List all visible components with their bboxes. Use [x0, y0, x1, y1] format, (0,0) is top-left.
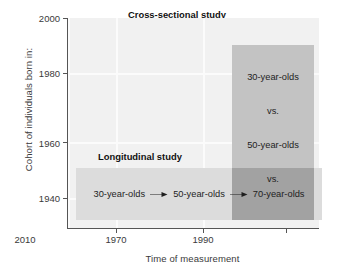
- longitudinal-item-list: 30-year-olds 50-year-olds 70-year-olds: [76, 168, 322, 220]
- y-tick-label-1940: 1940: [18, 193, 60, 204]
- y-tick-mark-2000: [63, 18, 68, 19]
- longitudinal-item: 30-year-olds: [93, 189, 145, 199]
- x-tick-mark-2010: [286, 228, 287, 233]
- x-tick-mark-1990: [203, 228, 204, 233]
- y-axis-title: Cohort of individuals born in:: [23, 10, 34, 210]
- y-tick-label-1960: 1960: [18, 138, 60, 149]
- cross-sectional-item: 30-year-olds: [232, 72, 314, 82]
- longitudinal-item: 70-year-olds: [253, 189, 305, 199]
- x-tick-mark-1970: [116, 228, 117, 233]
- cross-sectional-item: 50-year-olds: [232, 140, 314, 150]
- y-tick-label-2000: 2000: [18, 13, 60, 24]
- x-tick-label-1990: 1990: [178, 234, 228, 245]
- gridline-x-2010: [68, 18, 70, 228]
- y-tick-mark-1960: [63, 142, 68, 143]
- x-tick-label-2010: 2010: [0, 234, 50, 245]
- x-axis-title: Time of measurement: [67, 253, 318, 264]
- longitudinal-study-title: Longitudinal study: [98, 151, 182, 162]
- cross-sectional-item: vs.: [232, 106, 314, 116]
- y-tick-mark-1940: [63, 198, 68, 199]
- y-tick-label-1980: 1980: [18, 68, 60, 79]
- x-tick-label-1970: 1970: [91, 234, 141, 245]
- plot-area: Longitudinal study 30-year-olds vs. 50-y…: [67, 18, 319, 229]
- y-tick-mark-1980: [63, 73, 68, 74]
- cohort-study-design-figure: Cohort of individuals born in: 2000 1980…: [0, 0, 340, 275]
- right-arrow-icon: [230, 190, 248, 199]
- longitudinal-item: 50-year-olds: [173, 189, 225, 199]
- right-arrow-icon: [150, 190, 168, 199]
